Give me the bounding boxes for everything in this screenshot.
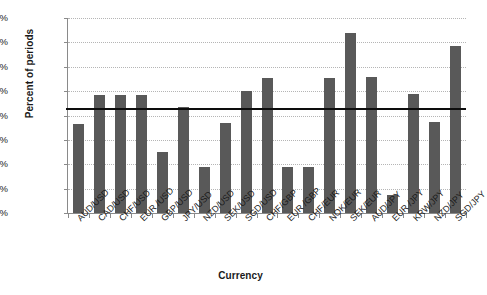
y-axis-title: Percent of periods xyxy=(24,9,35,139)
bar xyxy=(345,33,356,213)
y-tick-mark xyxy=(64,164,68,165)
bar xyxy=(73,124,84,213)
plot-area xyxy=(68,18,466,213)
y-tick-label: 0.0% xyxy=(0,207,8,218)
y-tick-label: 6.0% xyxy=(0,134,8,145)
y-tick-mark xyxy=(64,67,68,68)
y-tick-mark xyxy=(64,116,68,117)
y-tick-mark xyxy=(64,140,68,141)
gridline xyxy=(68,42,466,43)
y-tick-label: 8.0% xyxy=(0,110,8,121)
bar xyxy=(450,46,461,213)
y-tick-label: 4.0% xyxy=(0,158,8,169)
y-tick-label: 12.0% xyxy=(0,61,8,72)
y-tick-mark xyxy=(64,18,68,19)
y-tick-label: 2.0% xyxy=(0,183,8,194)
y-tick-mark xyxy=(64,42,68,43)
y-tick-label: 14.0% xyxy=(0,36,8,47)
y-tick-mark xyxy=(64,189,68,190)
x-axis-title: Currency xyxy=(0,270,481,281)
reference-line xyxy=(66,108,466,110)
y-tick-label: 16.0% xyxy=(0,12,8,23)
y-tick-mark xyxy=(64,91,68,92)
y-tick-label: 10.0% xyxy=(0,85,8,96)
gridline xyxy=(68,18,466,19)
x-tick-mark xyxy=(68,213,69,218)
gridline xyxy=(68,67,466,68)
